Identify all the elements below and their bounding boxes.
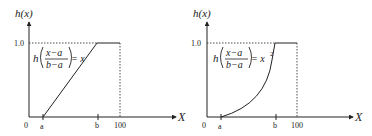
svg-text:b−a: b−a — [226, 59, 243, 70]
svg-text:h: h — [213, 52, 219, 64]
chart-quadratic: h(x) X 1.0 0 a b 100 h x−a b−a = x 2 — [191, 7, 363, 131]
x-tick-a: a — [218, 122, 222, 131]
chart-linear: h(x) X 1.0 0 a b 100 h x−a b−a = x — [14, 7, 186, 131]
x-tick-100: 100 — [114, 121, 126, 130]
x-tick-b: b — [273, 121, 277, 130]
formula: h x−a b−a = x — [33, 47, 85, 70]
svg-text:b−a: b−a — [46, 59, 63, 70]
svg-text:x−a: x−a — [225, 47, 242, 58]
x-tick-0: 0 — [24, 121, 28, 130]
svg-text:= x: = x — [251, 53, 265, 64]
y-axis-label: h(x) — [193, 7, 211, 20]
x-tick-b: b — [95, 121, 99, 130]
svg-text:= x: = x — [71, 53, 85, 64]
x-axis-label: X — [354, 110, 363, 124]
formula: h x−a b−a = x 2 — [213, 47, 274, 70]
x-tick-a: a — [40, 122, 44, 131]
svg-text:x−a: x−a — [45, 47, 62, 58]
y-tick-label: 1.0 — [191, 39, 201, 48]
y-axis-label: h(x) — [15, 7, 33, 20]
x-tick-100: 100 — [291, 121, 303, 130]
y-tick-label: 1.0 — [14, 39, 24, 48]
x-tick-0: 0 — [202, 121, 206, 130]
x-axis-label: X — [177, 110, 186, 124]
svg-text:h: h — [33, 52, 39, 64]
svg-text:2: 2 — [270, 50, 274, 58]
